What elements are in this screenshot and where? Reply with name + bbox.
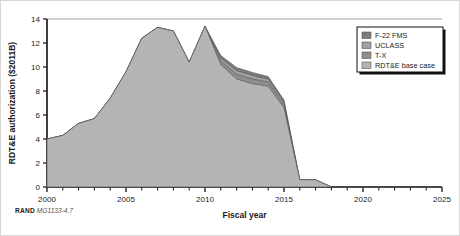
y-axis-title: RDT&E authorization ($2011B) xyxy=(7,42,17,164)
x-tick-label: 2020 xyxy=(354,195,372,204)
legend-label: UCLASS xyxy=(375,41,404,50)
y-tick-label: 14 xyxy=(31,15,40,24)
source-figure-number: MG1133-4.7 xyxy=(37,207,73,214)
x-tick-label: 2025 xyxy=(433,195,451,204)
figure-panel: 02468101214 200020052010201520202025 RDT… xyxy=(0,0,460,236)
x-axis-title: Fiscal year xyxy=(223,210,268,220)
source-note: RANDMG1133-4.7 xyxy=(15,207,73,214)
source-brand: RAND xyxy=(15,207,35,214)
y-tick-label: 6 xyxy=(36,111,41,120)
x-tick-label: 2005 xyxy=(117,195,135,204)
legend-label: RDT&E base case xyxy=(375,61,435,70)
legend-swatch xyxy=(362,42,371,49)
stacked-area-chart: 02468101214 200020052010201520202025 RDT… xyxy=(1,1,460,236)
legend-label: T-X xyxy=(375,51,386,60)
y-tick-label: 2 xyxy=(36,159,41,168)
y-tick-label: 10 xyxy=(31,63,40,72)
y-tick-label: 8 xyxy=(36,87,41,96)
x-axis: 200020052010201520202025 xyxy=(38,187,451,204)
x-tick-label: 2010 xyxy=(196,195,214,204)
y-tick-label: 0 xyxy=(36,183,41,192)
x-tick-label: 2015 xyxy=(275,195,293,204)
y-axis: 02468101214 xyxy=(31,15,47,192)
legend-swatch xyxy=(362,52,371,59)
y-tick-label: 12 xyxy=(31,39,40,48)
legend-label: F-22 FMS xyxy=(375,31,408,40)
legend-swatch xyxy=(362,32,371,39)
y-tick-label: 4 xyxy=(36,135,41,144)
chart-legend: F-22 FMSUCLASST-XRDT&E base case xyxy=(357,27,446,75)
x-tick-label: 2000 xyxy=(38,195,56,204)
legend-swatch xyxy=(362,62,371,69)
